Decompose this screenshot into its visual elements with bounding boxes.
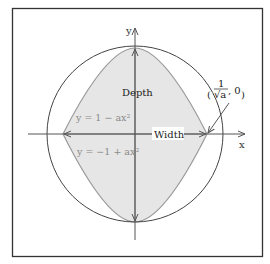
depth-label: Depth: [122, 87, 153, 98]
diagram-figure: y x Depth Width y = 1 − ax² y = −1 + ax²…: [0, 0, 270, 264]
y-axis-label: y: [125, 25, 132, 36]
width-label: Width: [154, 129, 185, 140]
x-axis-label: x: [239, 139, 245, 150]
svg-text:(: (: [207, 89, 211, 100]
upper-curve-equation: y = 1 − ax²: [75, 112, 130, 123]
svg-text:√a: √a: [214, 89, 226, 100]
lower-curve-equation: y = −1 + ax²: [76, 146, 139, 157]
svg-text:1: 1: [218, 78, 224, 89]
svg-text:, 0: , 0: [228, 85, 241, 96]
intersection-point-label: ( 1 √a , 0 ): [207, 78, 245, 100]
svg-text:): ): [241, 89, 245, 100]
